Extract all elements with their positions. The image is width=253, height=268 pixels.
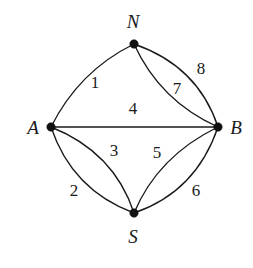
- graph-vertex-A: [47, 123, 55, 131]
- edge-label-e6: 6: [192, 182, 201, 199]
- graph-vertex-N: [130, 40, 138, 48]
- edge-label-e1: 1: [91, 74, 100, 91]
- edge-label-e3: 3: [110, 142, 119, 159]
- edge-label-e5: 5: [153, 144, 162, 161]
- graph-edge-e6: [134, 127, 218, 213]
- vertex-label-S: S: [128, 227, 138, 246]
- vertex-label-B: B: [230, 118, 242, 137]
- edge-label-e4: 4: [129, 100, 138, 117]
- graph-figure: 12345678NABS: [0, 0, 253, 268]
- edge-label-e7: 7: [173, 80, 182, 97]
- graph-edge-e3: [51, 127, 134, 213]
- edge-label-e2: 2: [70, 182, 79, 199]
- graph-vertex-B: [214, 123, 222, 131]
- graph-edge-e5: [134, 127, 218, 213]
- graph-edge-e2: [51, 127, 134, 213]
- graph-vertex-S: [130, 209, 138, 217]
- vertex-label-N: N: [127, 12, 140, 31]
- vertex-label-A: A: [27, 118, 39, 137]
- edge-label-e8: 8: [197, 60, 206, 77]
